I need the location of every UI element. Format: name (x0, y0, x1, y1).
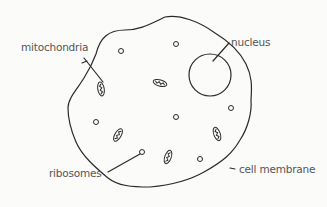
ribosomes (94, 42, 234, 162)
label-mitochondria: mitochondria (21, 41, 88, 53)
label-cell-membrane: cell membrane (239, 163, 315, 175)
cell-membrane-outline (68, 16, 251, 187)
label-nucleus: nucleus (231, 36, 270, 48)
mitochondria (97, 78, 223, 165)
nucleus-shape (189, 54, 231, 96)
label-ribosomes: ribosomes (49, 167, 102, 179)
cell-diagram: mitochondria nucleus ribosomes cell memb… (0, 0, 327, 207)
